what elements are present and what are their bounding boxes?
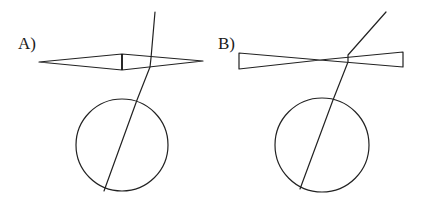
eye-circle-a: [76, 99, 168, 191]
panel-b-label: B): [218, 34, 235, 53]
panel-a-label: A): [18, 34, 36, 53]
panel-b: B): [218, 12, 403, 192]
converging-lens-shape: [39, 54, 203, 70]
light-ray-a: [104, 12, 155, 191]
light-ray-b: [300, 12, 386, 189]
eye-circle-b: [275, 98, 369, 192]
panel-a: A): [18, 12, 203, 191]
diverging-lens-shape: [239, 52, 403, 69]
lens-diagram: A) B): [0, 0, 423, 205]
